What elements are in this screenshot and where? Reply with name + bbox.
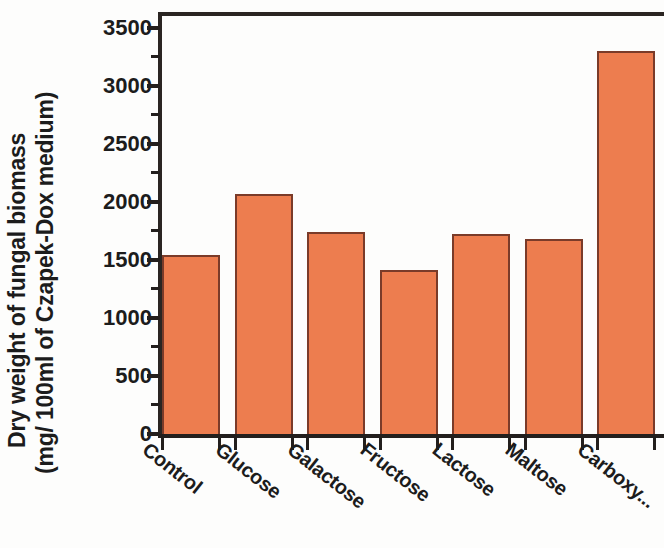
y-axis-minor-tick (151, 287, 160, 290)
y-axis-minor-tick (151, 171, 160, 174)
y-axis-tick-label: 3500 (78, 17, 152, 39)
y-axis-major-tick (147, 142, 160, 146)
y-axis-tick-label: 1000 (78, 307, 152, 329)
x-axis-category-label: Maltose (500, 438, 571, 501)
y-axis-major-tick (147, 374, 160, 378)
y-axis-tick-label: 2500 (78, 133, 152, 155)
y-axis-minor-tick (151, 113, 160, 116)
y-axis-minor-tick (151, 403, 160, 406)
y-axis-major-tick (147, 84, 160, 88)
bar (235, 194, 293, 434)
y-axis-tick-label: 2000 (78, 191, 152, 213)
x-axis-category-label: Lactose (428, 438, 500, 501)
y-axis-tick-label: 1500 (78, 249, 152, 271)
y-axis-major-tick (147, 316, 160, 320)
x-axis-category-label: Galactose (283, 438, 370, 513)
plot-frame-top (158, 12, 664, 16)
bar (380, 270, 438, 434)
bar (452, 234, 510, 434)
y-axis-minor-tick (151, 345, 160, 348)
x-axis-category-label: Glucose (210, 438, 285, 503)
y-axis-tick-labels: 0500100015002000250030003500 (62, 0, 152, 548)
bar (162, 255, 220, 434)
plot-area (158, 12, 664, 438)
y-axis-tick-label: 0 (78, 423, 152, 445)
y-axis-major-tick (147, 200, 160, 204)
bar (597, 51, 655, 434)
y-axis-tick-label: 3000 (78, 75, 152, 97)
y-axis-minor-tick (151, 55, 160, 58)
bar (307, 232, 365, 434)
y-axis-minor-tick (151, 229, 160, 232)
y-axis-major-tick (147, 26, 160, 30)
y-axis-title-line-1: Dry weight of fungal biomass (4, 133, 31, 448)
y-axis-tick-label: 500 (78, 365, 152, 387)
bar-chart-figure: Dry weight of fungal biomass (mg/ 100ml … (0, 0, 664, 548)
bar (525, 239, 583, 434)
y-axis-major-tick (147, 258, 160, 262)
y-axis-title-line-2: (mg/ 100ml of Czapek-Dox medium) (32, 92, 59, 474)
y-axis-major-tick (147, 432, 160, 436)
x-axis-category-label: Carboxy... (573, 438, 660, 513)
x-axis-category-labels: ControlGlucoseGalactoseFructoseLactoseMa… (158, 438, 664, 548)
